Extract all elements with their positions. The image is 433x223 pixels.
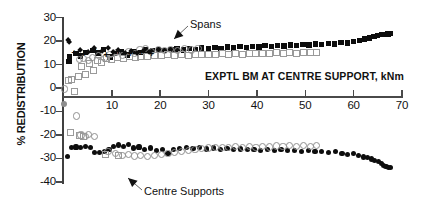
data-point (80, 133, 87, 140)
x-tick-50 (305, 90, 307, 96)
x-tick-label-50: 50 (292, 99, 318, 111)
data-point (82, 71, 89, 78)
x-axis-line (63, 96, 403, 98)
data-point: + (148, 51, 154, 57)
data-point (319, 149, 324, 154)
x-axis-title: EXPTL BM AT CENTRE SUPPORT, kNm (205, 70, 404, 82)
data-point (275, 43, 280, 48)
data-point (288, 42, 293, 47)
data-point (388, 31, 393, 36)
y-tick-label-0: 0 (0, 81, 56, 93)
data-point (148, 145, 153, 150)
y-tick-30 (56, 17, 62, 19)
data-point: + (81, 51, 87, 57)
data-point (326, 41, 331, 46)
data-point (194, 45, 201, 52)
data-point (115, 152, 122, 159)
data-point (75, 73, 82, 80)
data-point (345, 40, 350, 45)
data-point (239, 144, 246, 151)
data-point (212, 45, 217, 50)
data-point (300, 42, 305, 47)
x-tick-label-10: 10 (99, 99, 125, 111)
data-point: + (127, 51, 133, 57)
data-point (61, 101, 67, 107)
data-point (281, 43, 286, 48)
x-tick-40 (256, 90, 258, 96)
data-point (88, 145, 93, 150)
data-point (151, 152, 158, 159)
data-point (262, 43, 267, 48)
data-point (142, 147, 147, 152)
data-point (131, 145, 136, 150)
data-point (66, 59, 71, 64)
y-tick-label--10: -10 (0, 104, 56, 116)
data-point (338, 40, 343, 45)
data-point (285, 148, 290, 153)
data-point: + (115, 49, 121, 55)
data-point (299, 149, 304, 154)
data-point (61, 85, 68, 92)
data-point (269, 44, 274, 49)
y-tick-20 (56, 40, 62, 42)
x-tick-60 (353, 90, 355, 96)
centre-supports-arrow-line (128, 178, 142, 190)
data-point (345, 152, 350, 157)
data-point (306, 42, 311, 47)
data-point (225, 44, 230, 49)
data-point (266, 143, 273, 150)
data-point: + (138, 50, 144, 56)
spans-arrow-head (174, 30, 183, 39)
annotation-spans-label: Spans (190, 18, 221, 30)
data-point (300, 142, 307, 149)
x-tick-label-20: 20 (147, 99, 173, 111)
x-tick-70 (401, 90, 403, 96)
y-tick--30 (56, 158, 62, 160)
data-point (351, 39, 356, 44)
y-tick--40 (56, 181, 62, 183)
data-point (313, 142, 320, 149)
y-tick--10 (56, 111, 62, 113)
x-tick-label-60: 60 (341, 99, 367, 111)
data-point (178, 148, 185, 155)
data-point (65, 154, 70, 159)
x-tick-10 (111, 90, 113, 96)
data-point (388, 165, 393, 170)
data-point (326, 150, 331, 155)
data-point: + (71, 50, 77, 56)
data-point (71, 88, 78, 95)
y-tick-label-20: 20 (0, 34, 56, 46)
data-point (91, 133, 98, 140)
data-point (333, 149, 338, 154)
annotation-centre-supports-label: Centre Supports (144, 185, 224, 197)
y-tick-10 (56, 64, 62, 66)
data-point (312, 149, 317, 154)
y-tick-label--20: -20 (0, 128, 56, 140)
y-tick-label--40: -40 (0, 175, 56, 187)
data-point (313, 49, 320, 56)
data-point (102, 151, 109, 158)
chart-container: % REDISTRIBUTION EXPTL BM AT CENTRE SUPP… (0, 0, 433, 223)
y-tick-label-30: 30 (0, 11, 56, 23)
data-point (250, 44, 255, 49)
data-point: + (103, 52, 109, 58)
x-tick-label-70: 70 (389, 99, 415, 111)
centre-supports-arrow-head (128, 178, 138, 187)
y-tick-label-10: 10 (0, 58, 56, 70)
data-point (136, 144, 141, 149)
data-point (67, 129, 74, 136)
data-point (332, 41, 337, 46)
data-point (90, 67, 97, 74)
data-point (237, 44, 242, 49)
data-point: + (92, 48, 98, 54)
x-tick-label-40: 40 (244, 99, 270, 111)
data-point (339, 151, 344, 156)
spans-arrow-line (174, 26, 188, 39)
y-tick-label--30: -30 (0, 151, 56, 163)
x-tick-20 (159, 90, 161, 96)
data-point (78, 63, 85, 70)
data-point (313, 41, 318, 46)
data-point (73, 112, 80, 119)
x-tick-label-30: 30 (196, 99, 222, 111)
data-point (319, 42, 324, 47)
